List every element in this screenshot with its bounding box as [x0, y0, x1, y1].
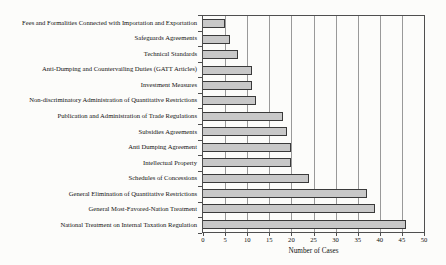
bar [203, 204, 375, 213]
category-label: Fees and Formalities Connected with Impo… [0, 15, 197, 31]
bar [203, 96, 256, 105]
category-label: Anti-Dumping and Countervailing Duties (… [0, 62, 197, 78]
bar [203, 66, 252, 75]
x-tick-label: 40 [370, 237, 390, 244]
bar-chart-figure: Fees and Formalities Connected with Impo… [0, 0, 446, 265]
category-label: Safeguards Agreements [0, 31, 197, 47]
bar [203, 19, 225, 28]
x-axis-title: Number of Cases [202, 248, 425, 255]
x-tick-label: 50 [414, 237, 434, 244]
bar [203, 143, 291, 152]
gridline [225, 16, 226, 232]
y-axis-tick-mark [198, 77, 202, 78]
category-label: National Treatment on Internal Taxation … [0, 217, 197, 233]
category-labels: Fees and Formalities Connected with Impo… [0, 15, 197, 233]
gridline [247, 16, 248, 232]
y-axis-tick-mark [198, 31, 202, 32]
gridline [269, 16, 270, 232]
bar [203, 35, 230, 44]
x-tick-label: 10 [237, 237, 257, 244]
gridline [291, 16, 292, 232]
category-label: Publication and Administration of Trade … [0, 108, 197, 124]
x-tick-label: 30 [326, 237, 346, 244]
y-axis-tick-mark [198, 93, 202, 94]
bar [203, 220, 406, 229]
category-label: Technical Standards [0, 46, 197, 62]
x-tick-label: 0 [193, 237, 213, 244]
category-label: Anti Dumping Agreement [0, 140, 197, 156]
y-axis-tick-mark [198, 186, 202, 187]
x-tick-label: 25 [304, 237, 324, 244]
category-label: Investment Measures [0, 77, 197, 93]
gridline [380, 16, 381, 232]
x-tick-label: 20 [281, 237, 301, 244]
y-axis-tick-mark [198, 62, 202, 63]
bar [203, 50, 238, 59]
y-axis-tick-mark [198, 124, 202, 125]
y-axis-tick-mark [198, 140, 202, 141]
category-label: Schedules of Concessions [0, 171, 197, 187]
y-axis-tick-mark [198, 155, 202, 156]
gridline [358, 16, 359, 232]
category-label: General Elimination of Quantitative Rest… [0, 186, 197, 202]
y-axis-tick-mark [198, 171, 202, 172]
x-tick-label: 45 [392, 237, 412, 244]
gridline [336, 16, 337, 232]
y-axis-tick-mark [198, 233, 202, 234]
bar [203, 127, 287, 136]
gridline [314, 16, 315, 232]
x-tick-label: 15 [259, 237, 279, 244]
y-axis-tick-mark [198, 46, 202, 47]
y-axis-tick-mark [198, 217, 202, 218]
category-label: General Most-Favored-Nation Treatment [0, 202, 197, 218]
y-axis-tick-mark [198, 15, 202, 16]
y-axis-tick-mark [198, 202, 202, 203]
x-tick-label: 35 [348, 237, 368, 244]
gridline [402, 16, 403, 232]
y-axis-tick-mark [198, 108, 202, 109]
plot-area [202, 15, 425, 233]
x-tick-label: 5 [215, 237, 235, 244]
category-label: Intellectual Property [0, 155, 197, 171]
bar [203, 189, 367, 198]
bar [203, 112, 283, 121]
bar [203, 81, 252, 90]
bar [203, 174, 309, 183]
bar [203, 158, 291, 167]
category-label: Subsidies Agreements [0, 124, 197, 140]
category-label: Non-discriminatory Administration of Qua… [0, 93, 197, 109]
